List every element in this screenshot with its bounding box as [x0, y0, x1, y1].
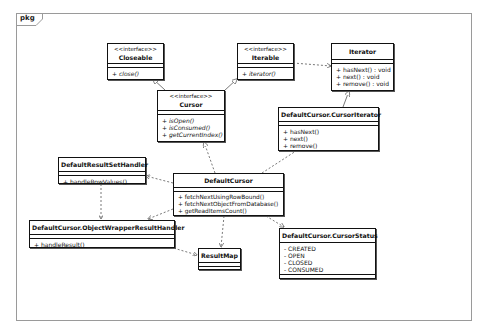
- class-header: <<interface>> Iterable: [238, 44, 293, 64]
- stereotype-label: <<interface>>: [110, 46, 161, 54]
- operations-compartment: + fetchNextUsingRowBound() + fetchNextOb…: [174, 192, 283, 218]
- class-cursor-iterator[interactable]: DefaultCursor.CursorIterator + hasNext()…: [278, 107, 379, 151]
- operations-compartment: [280, 274, 375, 279]
- operations-compartment: + iterator(): [238, 68, 293, 79]
- attributes-compartment: - CREATED - OPEN - CLOSED - CONSUMED: [280, 243, 375, 274]
- class-name: Iterator: [334, 48, 391, 56]
- operation: + isConsumed(): [162, 124, 220, 131]
- edge-defaultcursor-cursor: [204, 142, 215, 173]
- edge-defaultcursor-objectwrapper: [148, 209, 173, 219]
- operations-compartment: [199, 267, 240, 270]
- edge-defaultcursor-cursorstatus: [266, 216, 284, 227]
- operations-compartment: + hasNext() + next() + remove(): [279, 126, 378, 152]
- class-header: DefaultCursor: [174, 174, 283, 188]
- stereotype-label: <<interface>>: [160, 93, 222, 101]
- operations-compartment: + isOpen() + isConsumed() + getCurrentIn…: [158, 115, 224, 141]
- operation: + fetchNextUsingRowBound(): [178, 194, 279, 201]
- operation: + next() : void: [336, 73, 389, 80]
- operation: + getCurrentIndex(): [162, 131, 220, 138]
- stereotype-label: <<interface>>: [240, 46, 291, 54]
- operations-compartment: + handleResult(): [30, 239, 174, 250]
- class-header: <<interface>> Cursor: [158, 91, 224, 111]
- enum-literal: - OPEN: [284, 252, 371, 259]
- class-header: ResultMap: [199, 249, 240, 263]
- operation: + next(): [283, 135, 374, 142]
- class-header: DefaultCursor.ObjectWrapperResultHandler: [30, 221, 174, 235]
- operations-compartment: + handleRowValues(): [59, 176, 145, 187]
- operations-compartment: + close(): [108, 68, 163, 79]
- class-closeable[interactable]: <<interface>> Closeable + close(): [107, 43, 164, 80]
- class-header: Iterator: [332, 44, 393, 60]
- operation: + remove(): [283, 142, 374, 149]
- operation: + handleRowValues(): [63, 178, 141, 185]
- class-cursor-status[interactable]: DefaultCursor.CursorStatus - CREATED - O…: [279, 228, 376, 279]
- operation: + fetchNextObjectFromDatabase(): [178, 201, 279, 208]
- class-name: Cursor: [160, 101, 222, 109]
- edge-cursoriterator-iterator: [343, 91, 349, 107]
- operation: + hasNext(): [283, 128, 374, 135]
- class-name: DefaultCursor.ObjectWrapperResultHandler: [32, 224, 172, 232]
- edge-defaultcursor-resultmap: [221, 216, 224, 247]
- class-header: DefaultCursor.CursorIterator: [279, 108, 378, 122]
- class-header: DefaultResultSetHandler: [59, 158, 145, 172]
- class-result-map[interactable]: ResultMap: [198, 248, 241, 270]
- operation: + handleResult(): [34, 241, 170, 248]
- enum-literal: - CONSUMED: [284, 266, 371, 273]
- class-name: DefaultResultSetHandler: [61, 161, 143, 169]
- class-object-wrapper-result-handler[interactable]: DefaultCursor.ObjectWrapperResultHandler…: [29, 220, 175, 248]
- edge-cursor-closeable: [153, 79, 165, 90]
- edge-defaultcursor-cursoriterator: [262, 151, 296, 173]
- class-cursor[interactable]: <<interface>> Cursor + isOpen() + isCons…: [157, 90, 225, 142]
- class-name: ResultMap: [201, 252, 238, 260]
- edge-iterable-iterator: [293, 63, 331, 66]
- operation: + hasNext() : void: [336, 66, 389, 73]
- enum-literal: - CREATED: [284, 245, 371, 252]
- edge-cursor-iterable: [224, 79, 237, 91]
- class-name: Closeable: [110, 54, 161, 62]
- operation: + close(): [112, 70, 159, 77]
- diagram-canvas: pkg: [0, 0, 485, 336]
- operation: + iterator(): [242, 70, 289, 77]
- enum-literal: - CLOSED: [284, 259, 371, 266]
- edge-defaultcursor-resultsethandler: [146, 176, 173, 183]
- class-default-cursor[interactable]: DefaultCursor + fetchNextUsingRowBound()…: [173, 173, 284, 216]
- operation: + remove() : void: [336, 80, 389, 87]
- class-name: Iterable: [240, 54, 291, 62]
- class-header: <<interface>> Closeable: [108, 44, 163, 64]
- operations-compartment: + hasNext() : void + next() : void + rem…: [332, 64, 393, 90]
- class-header: DefaultCursor.CursorStatus: [280, 229, 375, 243]
- class-default-result-set-handler[interactable]: DefaultResultSetHandler + handleRowValue…: [58, 157, 146, 184]
- class-iterator[interactable]: Iterator + hasNext() : void + next() : v…: [331, 43, 394, 91]
- class-name: DefaultCursor.CursorIterator: [281, 111, 376, 119]
- edge-objectwrapper-resultmap: [170, 247, 197, 255]
- operation: + getReadItemsCount(): [178, 208, 279, 215]
- operation: + isOpen(): [162, 117, 220, 124]
- class-name: DefaultCursor.CursorStatus: [282, 232, 373, 240]
- class-name: DefaultCursor: [176, 177, 281, 185]
- class-iterable[interactable]: <<interface>> Iterable + iterator(): [237, 43, 294, 80]
